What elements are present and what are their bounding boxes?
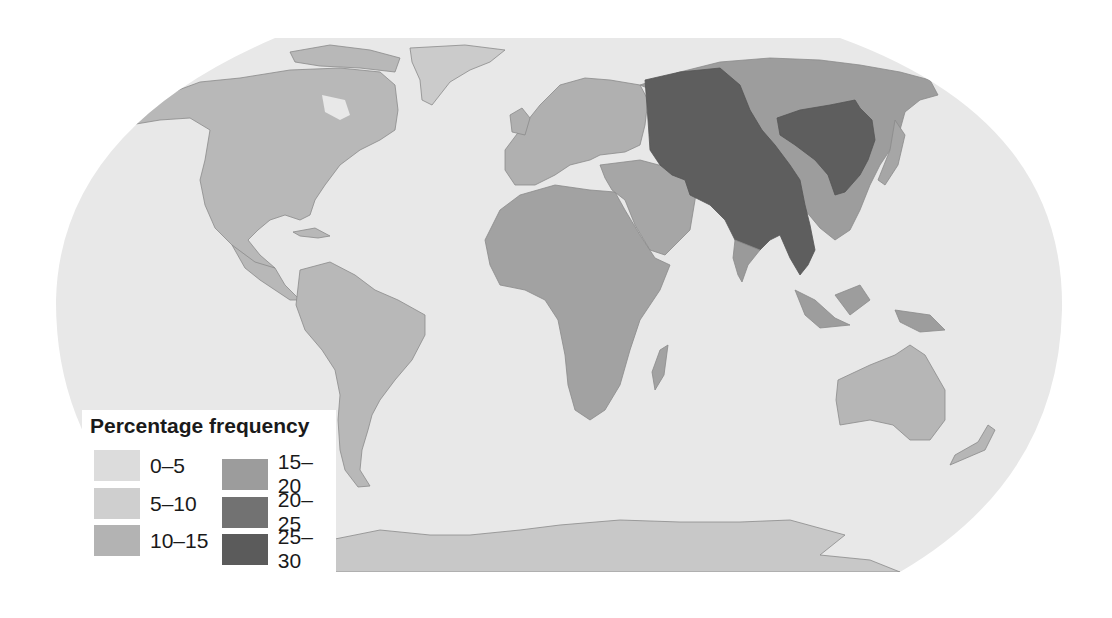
legend-swatch: [222, 497, 268, 528]
legend: Percentage frequency 0–5 5–10 10–15 15–2…: [82, 410, 336, 572]
legend-label: 0–5: [150, 454, 185, 478]
legend-swatch: [94, 488, 140, 519]
legend-item-5-10: 5–10: [94, 488, 197, 519]
legend-label: 10–15: [150, 529, 208, 553]
legend-item-0-5: 0–5: [94, 450, 185, 481]
legend-swatch: [222, 459, 268, 490]
legend-swatch: [94, 450, 140, 481]
legend-title: Percentage frequency: [90, 414, 309, 438]
legend-swatch: [222, 534, 268, 565]
legend-swatch: [94, 525, 140, 556]
legend-label: 25–30: [278, 525, 336, 573]
legend-label: 5–10: [150, 492, 197, 516]
legend-item-25-30: 25–30: [222, 525, 336, 573]
legend-item-10-15: 10–15: [94, 525, 208, 556]
